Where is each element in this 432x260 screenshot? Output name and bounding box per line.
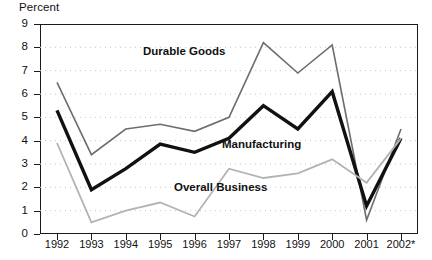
x-tick-mark — [195, 234, 196, 240]
x-tick-mark — [367, 234, 368, 240]
series-label-manufacturing: Manufacturing — [222, 138, 301, 150]
y-tick-label: 4 — [2, 135, 28, 147]
x-tick-mark — [229, 234, 230, 240]
y-tick-label: 3 — [2, 158, 28, 170]
y-tick-label: 9 — [2, 18, 28, 30]
y-tick-label: 5 — [2, 111, 28, 123]
x-tick-mark — [298, 234, 299, 240]
plot-series-layer — [40, 24, 418, 234]
x-tick-mark — [263, 234, 264, 240]
y-tick-label: 8 — [2, 41, 28, 53]
x-tick-mark — [126, 234, 127, 240]
y-tick-label: 1 — [2, 205, 28, 217]
x-tick-mark — [332, 234, 333, 240]
series-label-overall-business: Overall Business — [174, 181, 267, 193]
x-tick-mark — [160, 234, 161, 240]
series-label-durable-goods: Durable Goods — [143, 45, 225, 57]
series-line-durable-goods — [57, 43, 401, 220]
x-tick-mark — [57, 234, 58, 240]
y-tick-label: 7 — [2, 65, 28, 77]
series-lines — [57, 43, 401, 223]
y-tick-label: 6 — [2, 88, 28, 100]
line-chart: Percent 9876543210 199219931994199519961… — [0, 0, 432, 260]
y-tick-label: 0 — [2, 228, 28, 240]
y-tick-mark — [34, 234, 40, 235]
x-tick-mark — [91, 234, 92, 240]
y-axis-title: Percent — [19, 1, 59, 13]
y-tick-label: 2 — [2, 181, 28, 193]
x-tick-mark — [401, 234, 402, 240]
